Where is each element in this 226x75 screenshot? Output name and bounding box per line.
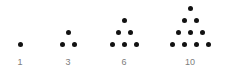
dot	[200, 30, 205, 35]
dot	[194, 18, 199, 23]
dot	[182, 42, 187, 47]
group-label-1: 1	[17, 57, 22, 67]
dot	[194, 42, 199, 47]
group-label-3: 3	[65, 57, 70, 67]
group-label-6: 6	[121, 57, 126, 67]
dot	[188, 30, 193, 35]
dot	[188, 6, 193, 11]
dot	[206, 42, 211, 47]
dot	[182, 18, 187, 23]
dot	[170, 42, 175, 47]
group-label-10: 10	[185, 57, 195, 67]
dot	[176, 30, 181, 35]
triangular-numbers-figure: 13610	[0, 0, 226, 75]
